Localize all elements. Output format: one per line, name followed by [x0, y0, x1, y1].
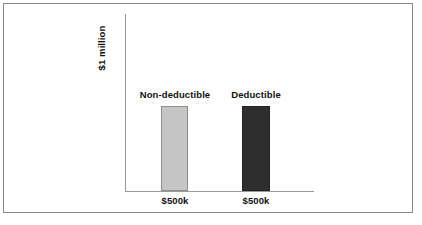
bar-deductible[interactable]: [242, 106, 270, 191]
x-tick-label-non-deductible: $500k: [134, 195, 216, 206]
bar-label-non-deductible: Non-deductible: [134, 89, 216, 100]
x-tick-label-deductible: $500k: [219, 195, 293, 206]
bar-non-deductible[interactable]: [161, 106, 188, 191]
bar-chart-figure: $1 million Non-deductible Deductible $50…: [0, 0, 422, 225]
bar-label-deductible: Deductible: [219, 89, 293, 100]
x-axis-line: [125, 191, 314, 192]
